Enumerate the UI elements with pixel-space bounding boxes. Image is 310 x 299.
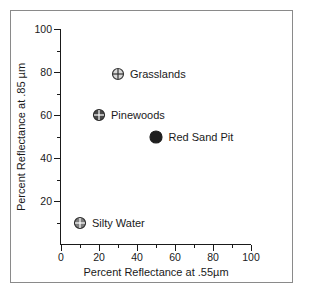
x-tick-minor	[80, 245, 81, 248]
y-tick-minor	[57, 137, 60, 138]
y-tick-label: 60	[40, 110, 52, 121]
y-tick-label: 100	[34, 24, 52, 35]
marker-filled-crosshair	[92, 108, 106, 122]
plot-area: 020406080100 20406080100 GrasslandsPinew…	[61, 29, 251, 244]
data-point-label: Pinewoods	[111, 109, 165, 121]
marker-open-crosshair	[111, 67, 125, 81]
y-tick-label: 40	[40, 153, 52, 164]
data-point[interactable]: Silty Water	[73, 216, 87, 230]
y-tick-major	[54, 115, 60, 116]
y-tick-minor	[57, 223, 60, 224]
y-tick-minor	[57, 180, 60, 181]
x-tick-label: 0	[58, 252, 64, 263]
x-tick-label: 80	[207, 252, 219, 263]
data-point[interactable]: Grasslands	[111, 67, 125, 81]
y-tick-major	[54, 158, 60, 159]
data-point[interactable]: Pinewoods	[92, 108, 106, 122]
data-point-label: Grasslands	[130, 68, 186, 80]
y-tick-major	[54, 29, 60, 30]
x-tick-label: 60	[169, 252, 181, 263]
y-tick-label: 80	[40, 67, 52, 78]
data-point-label: Silty Water	[92, 217, 145, 229]
y-tick-minor	[57, 94, 60, 95]
data-point[interactable]: Red Sand Pit	[149, 129, 164, 144]
y-tick-major	[54, 72, 60, 73]
figure-frame: 020406080100 20406080100 GrasslandsPinew…	[10, 10, 293, 283]
x-tick-label: 20	[93, 252, 105, 263]
x-tick-minor	[118, 245, 119, 248]
marker-filled-crosshair	[73, 216, 87, 230]
y-tick-major	[54, 201, 60, 202]
y-axis-line	[60, 29, 61, 244]
y-axis-title: Percent Reflectance at .85 µm	[15, 62, 27, 210]
y-tick-minor	[57, 51, 60, 52]
y-tick-label: 20	[40, 196, 52, 207]
x-tick-minor	[194, 245, 195, 248]
x-tick-minor	[232, 245, 233, 248]
marker-solid	[149, 129, 164, 144]
x-tick-label: 40	[131, 252, 143, 263]
x-axis-title: Percent Reflectance at .55µm	[83, 266, 228, 278]
data-point-label: Red Sand Pit	[169, 131, 234, 143]
x-tick-label: 100	[242, 252, 260, 263]
x-tick-minor	[156, 245, 157, 248]
